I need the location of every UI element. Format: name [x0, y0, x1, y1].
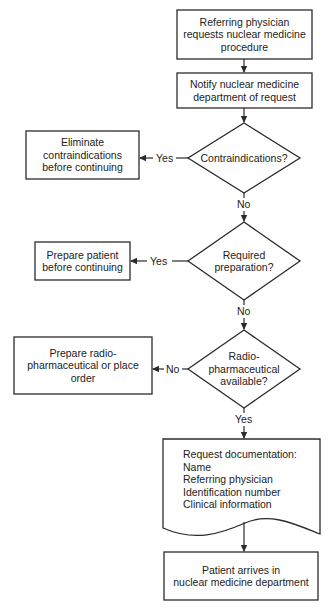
documentation-line-4: Identification number — [183, 486, 280, 499]
eliminate-line-3: before continuing — [42, 161, 123, 174]
documentation-line-2: Name — [183, 461, 211, 474]
label-contra-no: No — [236, 198, 251, 210]
prepare-radio-line-2: pharmaceutical or place — [27, 359, 138, 372]
eliminate-text: Eliminate contraindications before conti… — [26, 131, 139, 179]
documentation-line-3: Referring physician — [183, 473, 273, 486]
prep-decision-line-1: Required — [223, 249, 266, 262]
prepare-patient-line-2: before continuing — [42, 261, 123, 274]
eliminate-line-1: Eliminate — [61, 136, 104, 149]
label-radio-no: No — [165, 363, 180, 375]
label-radio-yes: Yes — [234, 413, 253, 425]
notify-text: Notify nuclear medicine department of re… — [177, 73, 312, 108]
prep-decision-line-2: preparation? — [215, 261, 274, 274]
documentation-line-5: Clinical information — [183, 498, 272, 511]
radio-decision-line-2: pharmaceutical — [208, 363, 279, 376]
start-text: Referring physician requests nuclear med… — [177, 10, 312, 59]
radio-decision-line-3: available? — [220, 375, 267, 388]
prepare-patient-text: Prepare patient before continuing — [35, 242, 130, 280]
start-line-1: Referring physician — [200, 16, 290, 29]
eliminate-line-2: contraindications — [43, 149, 122, 162]
label-prep-no: No — [236, 305, 251, 317]
label-contra-yes: Yes — [155, 152, 174, 164]
start-line-3: procedure — [221, 41, 268, 54]
prepare-patient-line-1: Prepare patient — [47, 249, 119, 262]
notify-line-2: department of request — [193, 91, 296, 104]
contra-decision-line-1: Contraindications? — [201, 152, 288, 165]
contra-decision-text: Contraindications? — [188, 123, 300, 193]
notify-line-1: Notify nuclear medicine — [190, 78, 299, 91]
arrives-line-2: nuclear medicine department — [173, 576, 308, 589]
arrives-text: Patient arrives in nuclear medicine depa… — [164, 552, 318, 600]
label-prep-yes: Yes — [149, 255, 168, 267]
prep-decision-text: Required preparation? — [188, 222, 300, 300]
prepare-radio-line-3: order — [71, 372, 96, 385]
prepare-radio-line-1: Prepare radio- — [49, 347, 116, 360]
radio-decision-line-1: Radio- — [229, 350, 260, 363]
start-line-2: requests nuclear medicine — [183, 28, 306, 41]
arrives-line-1: Patient arrives in — [202, 564, 280, 577]
documentation-text: Request documentation: Name Referring ph… — [183, 448, 318, 518]
documentation-line-1: Request documentation: — [183, 448, 297, 461]
prepare-radio-text: Prepare radio- pharmaceutical or place o… — [14, 337, 152, 394]
radio-decision-text: Radio- pharmaceutical available? — [188, 330, 300, 408]
